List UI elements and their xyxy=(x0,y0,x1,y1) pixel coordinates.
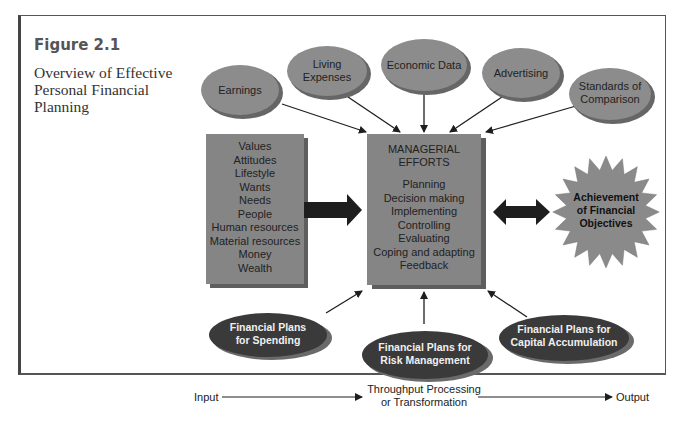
resource-item: Needs xyxy=(239,194,271,206)
flow-row: Input Throughput Processing or Transform… xyxy=(194,383,649,408)
oval-economic-data: Economic Data xyxy=(381,39,471,95)
arrow-standards xyxy=(486,106,576,132)
resources-box: Values Attitudes Lifestyle Wants Needs P… xyxy=(206,134,308,288)
managerial-item: Planning xyxy=(403,178,446,190)
plan-label: Financial Plans xyxy=(230,321,307,333)
oval-plans-risk: Financial Plans for Risk Management xyxy=(362,331,493,382)
flow-output-label: Output xyxy=(616,391,649,403)
oval-plans-spending: Financial Plans for Spending xyxy=(209,313,332,360)
resource-item: Money xyxy=(238,248,272,260)
managerial-item: Decision making xyxy=(384,192,465,204)
resource-item: People xyxy=(238,208,272,220)
managerial-item: Controlling xyxy=(398,219,451,231)
oval-advertising: Advertising xyxy=(482,48,564,102)
star-label: Achievement xyxy=(573,191,639,203)
plan-label: Risk Management xyxy=(380,354,470,366)
flow-throughput-label: or Transformation xyxy=(381,396,467,408)
plan-label: Capital Accumulation xyxy=(511,336,618,348)
planning-diagram: Earnings Living Expenses Economic Data A… xyxy=(0,0,683,441)
managerial-heading: MANAGERIAL xyxy=(388,143,460,155)
oval-label: Living xyxy=(313,58,342,70)
plan-label: Financial Plans for xyxy=(378,341,471,353)
oval-label: Earnings xyxy=(218,84,262,96)
oval-plans-capital: Financial Plans for Capital Accumulation xyxy=(499,315,634,364)
resource-item: Material resources xyxy=(210,235,301,247)
plan-label: for Spending xyxy=(236,334,301,346)
plan-arrows xyxy=(326,291,527,324)
flow-input-label: Input xyxy=(194,391,218,403)
managerial-item: Evaluating xyxy=(398,232,449,244)
oval-living-expenses: Living Expenses xyxy=(287,46,371,100)
arrow-advertising xyxy=(450,97,502,132)
oval-label: Economic Data xyxy=(387,59,462,71)
oval-standards-of-comparison: Standards of Comparison xyxy=(569,68,655,124)
managerial-item: Feedback xyxy=(400,259,449,271)
flow-throughput-label: Throughput Processing xyxy=(367,383,481,395)
resource-item: Wealth xyxy=(238,262,272,274)
resource-item: Values xyxy=(239,140,272,152)
arrow-spending xyxy=(326,291,362,313)
thick-right-arrow xyxy=(304,194,362,226)
arrow-living-expenses xyxy=(348,97,400,132)
managerial-heading: EFFORTS xyxy=(398,156,449,168)
managerial-efforts-box: MANAGERIAL EFFORTS Planning Decision mak… xyxy=(367,134,486,289)
oval-earnings: Earnings xyxy=(201,65,283,119)
resource-item: Wants xyxy=(240,181,271,193)
oval-label: Advertising xyxy=(494,67,548,79)
star-label: of Financial xyxy=(577,204,635,216)
oval-label: Standards of xyxy=(579,80,642,92)
resource-item: Lifestyle xyxy=(235,167,275,179)
oval-label: Comparison xyxy=(580,93,639,105)
plan-label: Financial Plans for xyxy=(517,323,610,335)
achievement-starburst: Achievement of Financial Objectives xyxy=(553,156,659,268)
double-headed-arrow xyxy=(493,199,550,225)
managerial-item: Coping and adapting xyxy=(373,246,475,258)
oval-label: Expenses xyxy=(303,71,352,83)
arrow-capital xyxy=(488,291,527,317)
arrow-earnings xyxy=(282,104,366,132)
managerial-item: Implementing xyxy=(391,205,457,217)
resource-item: Human resources xyxy=(212,221,299,233)
star-label: Objectives xyxy=(579,217,632,229)
resource-item: Attitudes xyxy=(234,154,277,166)
